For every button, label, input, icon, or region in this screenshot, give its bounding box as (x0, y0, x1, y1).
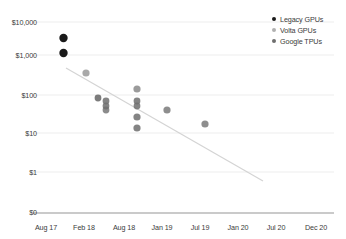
legend-swatch-icon (272, 39, 276, 43)
legend-item-volta-gpus[interactable]: Volta GPUs (272, 25, 344, 35)
chart-container: $10,000 $1,000 $100 $10 $1 $0 Aug 17 Feb… (0, 0, 346, 239)
y-axis-label: $0 (29, 208, 37, 217)
chart-legend: Legacy GPUs Volta GPUs Google TPUs (272, 14, 344, 47)
series-volta-gpus (82, 69, 208, 131)
data-point (201, 120, 208, 127)
x-axis-label: Jul 20 (267, 223, 286, 232)
legend-swatch-icon (272, 17, 276, 21)
data-point (133, 124, 140, 131)
legend-item-google-tpus[interactable]: Google TPUs (272, 36, 344, 46)
x-axis-label: Jan 20 (228, 223, 249, 232)
y-axis-label: $1 (29, 168, 37, 177)
data-point (103, 107, 110, 114)
data-point (95, 95, 102, 102)
legend-label: Google TPUs (280, 37, 322, 46)
data-point (59, 34, 67, 42)
x-axis-label: Aug 18 (113, 223, 135, 232)
data-point (134, 103, 141, 110)
y-axis-label: $100 (21, 91, 37, 100)
data-point (59, 49, 67, 57)
data-point (82, 69, 89, 76)
x-axis-label: Jul 19 (191, 223, 210, 232)
data-point (133, 113, 140, 120)
x-axis-label: Dec 20 (305, 223, 327, 232)
legend-item-legacy-gpus[interactable]: Legacy GPUs (272, 14, 344, 24)
trendline (66, 68, 263, 181)
data-point (163, 106, 170, 113)
x-axis-label: Jan 19 (152, 223, 173, 232)
series-legacy-gpus (59, 34, 67, 57)
legend-swatch-icon (272, 28, 276, 32)
x-axis-label: Feb 18 (73, 223, 95, 232)
y-axis-label: $10 (25, 129, 37, 138)
legend-label: Volta GPUs (280, 26, 316, 35)
data-point (133, 85, 140, 92)
y-axis-label: $10,000 (12, 18, 37, 27)
x-axis-label: Aug 17 (35, 223, 57, 232)
legend-label: Legacy GPUs (280, 15, 323, 24)
y-axis-label: $1,000 (16, 51, 37, 60)
